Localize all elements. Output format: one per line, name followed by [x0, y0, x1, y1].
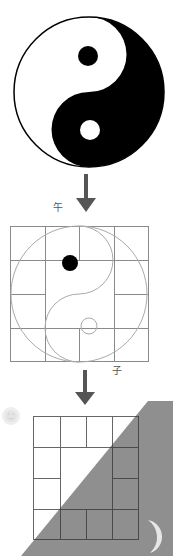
label-wu: 午	[53, 203, 63, 213]
yin-dot	[78, 46, 98, 66]
label-zi: 子	[112, 366, 122, 376]
grid-shadow-panel	[2, 401, 173, 556]
sun-face-icon	[2, 407, 20, 425]
taiji-symbol	[14, 17, 164, 167]
arrow-down-icon	[76, 174, 96, 212]
grid-taiji-panel	[10, 226, 149, 362]
yin-dot-grid	[62, 255, 78, 271]
yang-dot	[80, 120, 100, 140]
arrow-down-icon	[75, 370, 95, 405]
small-yang-circle	[81, 318, 97, 334]
